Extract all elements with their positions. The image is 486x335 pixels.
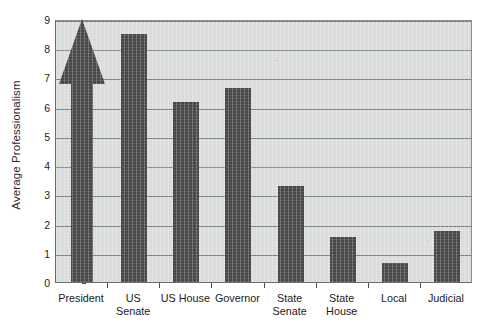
x-axis-category-label-line1: US House	[161, 292, 210, 304]
x-axis-category-label-line2: Senate	[264, 305, 316, 318]
x-axis-category-label-line1: Judicial	[428, 292, 464, 304]
x-axis-category-labels: PresidentUSSenateUS HouseGovernorStateSe…	[55, 292, 472, 334]
y-axis-title: Average Professionalism	[4, 0, 28, 290]
plot-area	[55, 20, 472, 283]
bar	[225, 88, 251, 282]
y-axis-tick-label: 6	[30, 102, 50, 114]
x-axis-category-label-line1: Local	[381, 292, 407, 304]
x-axis-category-label: USSenate	[107, 292, 159, 318]
bar	[382, 263, 408, 282]
bar	[434, 231, 460, 282]
x-axis-category-label-line1: State	[329, 292, 354, 304]
y-axis-tick-label: 1	[30, 248, 50, 260]
x-axis-tick-mark	[316, 283, 317, 288]
x-axis-category-label: StateSenate	[264, 292, 316, 318]
x-axis-tick-mark	[264, 283, 265, 288]
x-axis-tick-marks	[55, 283, 472, 289]
bar-arrow-president	[59, 19, 105, 282]
x-axis-category-label: Governor	[211, 292, 263, 305]
bar	[278, 186, 304, 282]
x-axis-category-label: StateHouse	[316, 292, 368, 318]
x-axis-category-label-line1: US	[126, 292, 141, 304]
y-axis-tick-labels: 0123456789	[30, 20, 50, 283]
chart-screenshot: Average Professionalism 0123456789 Presi…	[0, 0, 486, 335]
x-axis-tick-mark	[420, 283, 421, 288]
x-axis-category-label: Judicial	[420, 292, 472, 305]
bars-layer	[56, 21, 471, 282]
x-axis-category-label-line1: Governor	[215, 292, 260, 304]
x-axis-tick-mark	[211, 283, 212, 288]
bar	[121, 34, 147, 282]
x-axis-category-label: Local	[368, 292, 420, 305]
y-axis-tick-label: 3	[30, 189, 50, 201]
bar	[330, 237, 356, 282]
y-axis-title-text: Average Professionalism	[10, 80, 22, 209]
x-axis-tick-mark	[159, 283, 160, 288]
y-axis-tick-label: 8	[30, 43, 50, 55]
bar	[173, 102, 199, 282]
y-axis-tick-label: 9	[30, 14, 50, 26]
x-axis-tick-mark	[368, 283, 369, 288]
y-axis-tick-label: 2	[30, 219, 50, 231]
y-axis-tick-label: 0	[30, 277, 50, 289]
y-axis-tick-label: 4	[30, 160, 50, 172]
x-axis-category-label-line1: State	[277, 292, 302, 304]
x-axis-category-label: US House	[159, 292, 211, 305]
x-axis-tick-mark	[107, 283, 108, 288]
x-axis-category-label-line2: House	[316, 305, 368, 318]
x-axis-category-label-line1: President	[58, 292, 104, 304]
y-axis-tick-label: 5	[30, 131, 50, 143]
x-axis-category-label-line2: Senate	[107, 305, 159, 318]
y-axis-tick-label: 7	[30, 72, 50, 84]
x-axis-category-label: President	[55, 292, 107, 305]
